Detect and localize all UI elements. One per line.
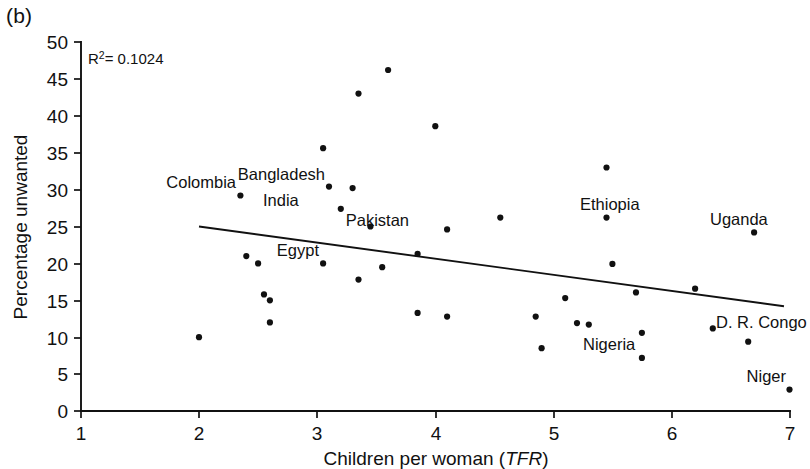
data-point xyxy=(379,264,385,270)
x-tick-label: 5 xyxy=(549,423,560,444)
y-axis-title: Percentage unwanted xyxy=(10,135,31,320)
data-point xyxy=(415,310,421,316)
x-axis-title: Children per woman (TFR) xyxy=(324,448,549,469)
data-point xyxy=(196,334,202,340)
data-point xyxy=(710,325,716,331)
y-tick-label: 25 xyxy=(47,217,68,238)
trend-line xyxy=(199,227,784,307)
r-squared-symbol: R xyxy=(88,50,99,67)
y-tick-label: 5 xyxy=(57,364,68,385)
r-squared-value: = 0.1024 xyxy=(105,50,164,67)
point-label-ethiopia: Ethiopia xyxy=(580,195,640,213)
data-point xyxy=(692,286,698,292)
y-tick-label: 45 xyxy=(47,69,68,90)
data-point xyxy=(609,261,615,267)
point-label-colombia: Colombia xyxy=(166,173,237,191)
data-point xyxy=(786,387,792,393)
data-point xyxy=(432,123,438,129)
point-label-pakistan: Pakistan xyxy=(346,211,409,229)
x-axis-title-main: Children per woman ( xyxy=(324,448,506,469)
point-labels: Colombia Bangladesh India Egypt Pakistan… xyxy=(166,165,807,385)
y-tick-label: 10 xyxy=(47,328,68,349)
x-axis-title-italic: TFR xyxy=(505,448,542,469)
x-axis-title-close: ) xyxy=(542,448,548,469)
x-tick-label: 1 xyxy=(76,423,87,444)
data-point xyxy=(320,260,326,266)
data-point xyxy=(255,260,261,266)
y-tick-label: 50 xyxy=(47,32,68,53)
data-point xyxy=(355,277,361,283)
point-label-uganda: Uganda xyxy=(710,210,769,228)
data-point xyxy=(350,185,356,191)
data-point xyxy=(751,229,757,235)
x-tick-label: 6 xyxy=(667,423,678,444)
point-label-egypt: Egypt xyxy=(277,241,320,259)
data-point xyxy=(261,291,267,297)
point-label-india: India xyxy=(263,191,300,209)
data-point xyxy=(562,295,568,301)
data-point xyxy=(603,215,609,221)
data-point xyxy=(267,297,273,303)
data-point xyxy=(338,206,344,212)
data-point xyxy=(745,339,751,345)
data-point xyxy=(355,91,361,97)
y-axis-ticks: 0 5 10 15 20 25 30 35 40 45 50 xyxy=(47,32,81,422)
scatter-points xyxy=(196,67,793,393)
point-label-dr-congo: D. R. Congo xyxy=(716,313,807,331)
data-point xyxy=(639,355,645,361)
data-point xyxy=(326,184,332,190)
x-tick-label: 7 xyxy=(785,423,796,444)
data-point xyxy=(633,289,639,295)
x-tick-label: 2 xyxy=(194,423,205,444)
data-point xyxy=(497,215,503,221)
data-point xyxy=(586,322,592,328)
point-label-nigeria: Nigeria xyxy=(583,335,636,353)
y-tick-label: 30 xyxy=(47,180,68,201)
data-point xyxy=(444,314,450,320)
data-point xyxy=(385,67,391,73)
data-point xyxy=(639,330,645,336)
point-label-niger: Niger xyxy=(747,367,787,385)
data-point xyxy=(539,345,545,351)
data-point xyxy=(603,164,609,170)
y-tick-label: 15 xyxy=(47,291,68,312)
data-point xyxy=(415,251,421,257)
x-axis-ticks: 1 2 3 4 5 6 7 xyxy=(76,411,796,444)
y-tick-label: 40 xyxy=(47,106,68,127)
data-point xyxy=(574,320,580,326)
data-point xyxy=(320,145,326,151)
x-tick-label: 4 xyxy=(431,423,442,444)
y-tick-label: 35 xyxy=(47,143,68,164)
point-label-bangladesh: Bangladesh xyxy=(238,165,325,183)
data-point xyxy=(237,192,243,198)
r-squared-annotation: R2= 0.1024 xyxy=(88,49,164,67)
data-point xyxy=(444,226,450,232)
figure-panel-b: (b) Percentage unwanted 0 5 10 15 20 25 … xyxy=(0,0,810,469)
scatter-plot: Percentage unwanted 0 5 10 15 20 25 30 3… xyxy=(0,0,810,469)
data-point xyxy=(533,314,539,320)
data-point xyxy=(267,319,273,325)
data-point xyxy=(243,253,249,259)
y-tick-label: 0 xyxy=(57,401,68,422)
x-tick-label: 3 xyxy=(312,423,323,444)
y-tick-label: 20 xyxy=(47,254,68,275)
